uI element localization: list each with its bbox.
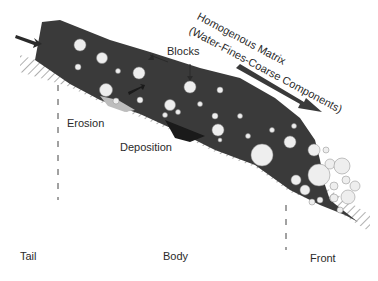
deposition-label: Deposition xyxy=(120,141,172,153)
zone-label-front: Front xyxy=(310,252,336,264)
debris-flow-diagram: Homogenous Matrix (Water-Fines-Coarse Co… xyxy=(0,0,378,281)
diagram-canvas xyxy=(0,0,378,281)
erosion-label: Erosion xyxy=(67,117,104,129)
blocks-label: Blocks xyxy=(167,45,199,57)
zone-label-body: Body xyxy=(163,250,188,262)
zone-label-tail: Tail xyxy=(20,250,37,262)
